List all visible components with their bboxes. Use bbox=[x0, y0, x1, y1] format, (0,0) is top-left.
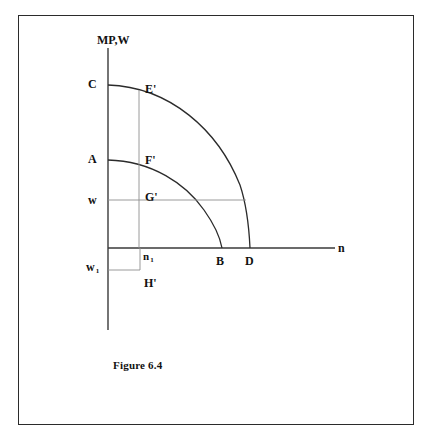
label-wage-w1-base: w bbox=[86, 260, 95, 274]
mp-curve-inner bbox=[108, 160, 222, 248]
label-point-f-prime: F' bbox=[145, 154, 156, 166]
mp-curve-outer bbox=[108, 85, 250, 248]
label-point-e-prime: E' bbox=[145, 83, 156, 95]
label-n1: n1 bbox=[143, 251, 154, 264]
label-wage-w1: w1 bbox=[86, 261, 99, 275]
label-point-h-prime: H' bbox=[144, 277, 157, 289]
figure-diagram bbox=[0, 0, 434, 446]
label-point-g-prime: G' bbox=[145, 191, 158, 203]
figure-caption: Figure 6.4 bbox=[113, 360, 162, 371]
label-wage-w: w bbox=[88, 194, 97, 206]
label-point-a: A bbox=[88, 153, 97, 165]
label-point-b: B bbox=[216, 255, 224, 267]
x-axis-label: n bbox=[338, 242, 345, 254]
label-point-c: C bbox=[88, 78, 97, 90]
label-n1-subscript: 1 bbox=[149, 256, 154, 264]
label-wage-w1-subscript: 1 bbox=[95, 267, 100, 275]
y-axis-label: MP,W bbox=[97, 34, 130, 46]
label-point-d: D bbox=[245, 255, 254, 267]
